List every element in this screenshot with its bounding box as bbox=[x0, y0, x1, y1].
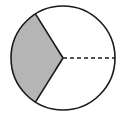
circle-diagram bbox=[0, 0, 119, 115]
shaded-sector bbox=[11, 14, 63, 102]
